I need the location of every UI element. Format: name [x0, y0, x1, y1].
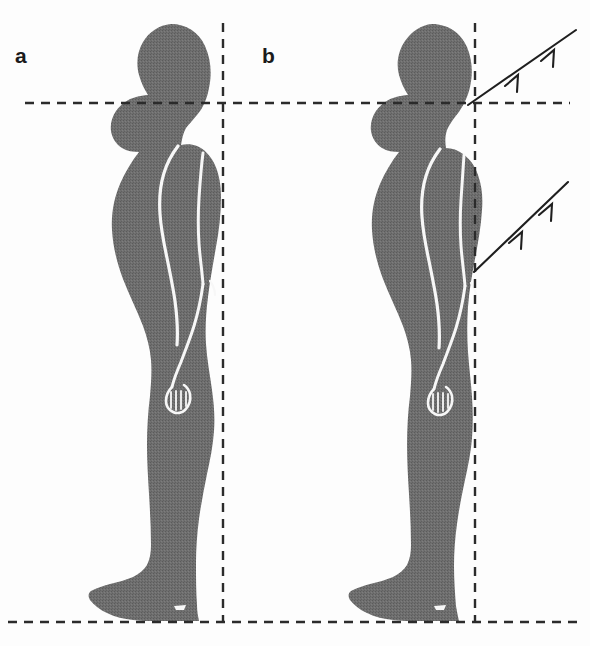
- trunk-correction-arrow: [474, 182, 568, 272]
- figure-container: a b: [0, 0, 590, 646]
- body-silhouette-a: [89, 24, 221, 621]
- head-correction-arrow: [468, 30, 576, 105]
- reference-lines: [8, 23, 578, 622]
- arrowhead-inner-trunk: [509, 232, 522, 249]
- panel-label-a: a: [15, 45, 27, 66]
- posture-comparison-figure: [0, 0, 590, 646]
- correction-arrows: [468, 30, 576, 272]
- body-silhouette-b: [349, 24, 483, 621]
- panel-label-b: b: [262, 45, 275, 66]
- silhouette-panel-a: [89, 24, 221, 621]
- silhouette-panel-b: [349, 24, 483, 621]
- hip-contour-a: [210, 281, 215, 295]
